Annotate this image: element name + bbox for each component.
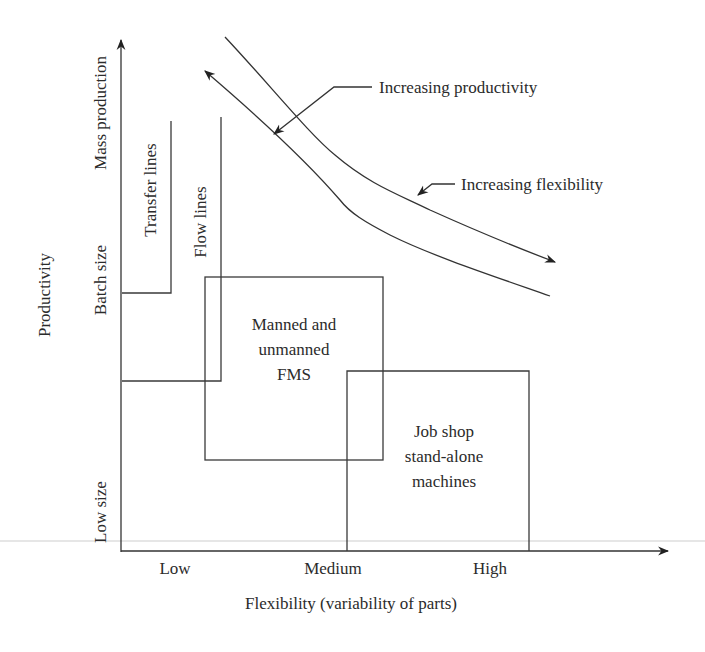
fms-label-line-2: unmanned <box>259 340 330 359</box>
increasing-flexibility-curve <box>225 37 555 262</box>
x-axis-title: Flexibility (variability of parts) <box>245 594 457 613</box>
fms-label-line-3: FMS <box>277 365 311 384</box>
x-tick-high: High <box>473 559 508 578</box>
flow-lines-label: Flow lines <box>191 186 210 257</box>
increasing-flexibility-label: Increasing flexibility <box>461 175 604 194</box>
flexibility-productivity-diagram: Increasing productivity Increasing flexi… <box>0 0 705 652</box>
y-tick-low-size: Low size <box>91 481 110 543</box>
fms-label-line-1: Manned and <box>252 315 337 334</box>
transfer-lines-label: Transfer lines <box>141 143 160 236</box>
x-tick-medium: Medium <box>304 559 362 578</box>
y-axis-title: Productivity <box>35 252 54 337</box>
job-shop-label-line-1: Job shop <box>414 422 474 441</box>
flexibility-leader <box>418 184 455 195</box>
y-tick-batch-size: Batch size <box>91 245 110 315</box>
job-shop-label-line-2: stand-alone <box>405 447 483 466</box>
x-tick-low: Low <box>159 559 191 578</box>
y-tick-mass-production: Mass production <box>91 56 110 170</box>
productivity-leader <box>274 87 372 134</box>
increasing-productivity-label: Increasing productivity <box>379 78 538 97</box>
job-shop-label-line-3: machines <box>412 472 476 491</box>
